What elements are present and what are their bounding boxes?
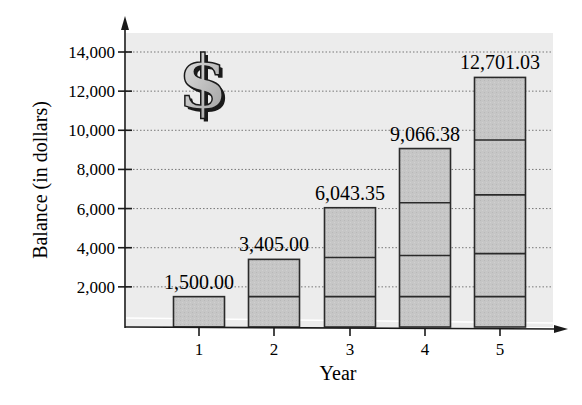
bar-year-2	[249, 259, 300, 327]
bar-year-1	[174, 297, 225, 327]
y-tick-label: 14,000	[68, 43, 115, 62]
x-axis-title: Year	[320, 362, 357, 384]
y-tick-label: 12,000	[68, 82, 115, 101]
bar-year-4	[400, 149, 451, 327]
x-tick-label: 2	[270, 340, 279, 359]
x-tick-label: 5	[496, 340, 505, 359]
bar-value-label: 6,043.35	[315, 182, 385, 204]
y-axis-arrow-icon	[121, 16, 129, 30]
balance-bar-chart: 1,500.003,405.006,043.359,066.3812,701.0…	[0, 0, 582, 405]
y-tick-label: 10,000	[68, 121, 115, 140]
x-tick-label: 1	[195, 340, 204, 359]
x-axis-ticks: 12345	[195, 328, 505, 359]
y-tick-label: 6,000	[77, 200, 115, 219]
dollar-sign-icon: $ $	[178, 40, 231, 128]
bar-value-label: 1,500.00	[164, 271, 234, 293]
x-tick-label: 4	[421, 340, 430, 359]
bar-value-label: 9,066.38	[390, 123, 460, 145]
bar-value-label: 12,701.03	[460, 51, 540, 73]
bar-value-label: 3,405.00	[239, 233, 309, 255]
y-tick-label: 4,000	[77, 239, 115, 258]
y-axis-title: Balance (in dollars)	[29, 101, 52, 259]
y-axis-ticks: 2,0004,0006,0008,00010,00012,00014,000	[68, 43, 132, 297]
bar-year-3	[325, 208, 376, 327]
x-tick-label: 3	[346, 340, 355, 359]
y-tick-label: 8,000	[77, 160, 115, 179]
x-axis-arrow-icon	[554, 325, 568, 333]
bar-year-5	[475, 77, 526, 327]
y-tick-label: 2,000	[77, 278, 115, 297]
svg-text:$: $	[178, 40, 228, 125]
